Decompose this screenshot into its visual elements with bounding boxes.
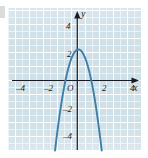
- graph-figure: y x O –4 –2 2 4 4 2 –2 –4: [0, 0, 148, 158]
- x-axis: [12, 77, 139, 83]
- origin-label: O: [67, 84, 74, 93]
- x-tick-label-minus4: –4: [16, 84, 25, 93]
- y-tick-label-minus2: –2: [63, 105, 72, 114]
- y-tick-label-minus4: –4: [63, 132, 72, 141]
- x-tick-label-4: 4: [130, 84, 135, 93]
- x-tick-label-minus2: –2: [44, 84, 53, 93]
- plot-area: [0, 0, 148, 158]
- x-tick-label-2: 2: [102, 84, 107, 93]
- y-tick-label-2: 2: [67, 50, 72, 59]
- y-axis-label: y: [81, 9, 85, 19]
- y-tick-label-4: 4: [66, 22, 71, 31]
